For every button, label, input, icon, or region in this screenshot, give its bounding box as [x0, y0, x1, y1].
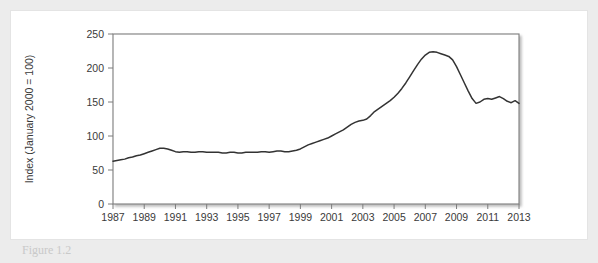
x-axis-tick-label: 1993	[195, 211, 219, 223]
y-axis-tick-label: 200	[86, 62, 104, 74]
x-axis-tick-label: 2009	[445, 211, 469, 223]
y-axis-tick-label: 50	[92, 164, 104, 176]
x-axis-tick-label: 1989	[133, 211, 157, 223]
y-axis-tick-label: 150	[86, 96, 104, 108]
y-axis: 050100150200250	[86, 28, 113, 210]
caption-strip: Figure 1.2	[0, 240, 598, 263]
chart-plot-area: 050100150200250 198719891991199319951997…	[11, 11, 589, 241]
x-axis-tick-label: 1997	[257, 211, 281, 223]
x-axis-tick-label: 1991	[164, 211, 188, 223]
x-axis-tick-label: 2005	[382, 211, 406, 223]
x-axis-tick-label: 1995	[226, 211, 250, 223]
x-axis-tick-label: 2001	[320, 211, 344, 223]
x-axis-tick-label: 1987	[101, 211, 125, 223]
x-axis-tick-label: 2007	[414, 211, 438, 223]
y-axis-title: Index (January 2000 = 100)	[23, 55, 35, 184]
x-axis-tick-label: 2003	[351, 211, 375, 223]
figure-card: 050100150200250 198719891991199319951997…	[10, 10, 588, 240]
y-axis-tick-label: 0	[98, 198, 104, 210]
y-axis-tick-label: 100	[86, 130, 104, 142]
figure-caption: Figure 1.2	[22, 243, 71, 258]
x-axis: 1987198919911993199519971999200120032005…	[101, 204, 531, 223]
x-axis-tick-label: 2011	[476, 211, 499, 223]
house-price-index-line-chart: 050100150200250 198719891991199319951997…	[11, 11, 589, 241]
x-axis-tick-label: 2013	[507, 211, 531, 223]
plot-frame	[113, 34, 519, 204]
y-axis-tick-label: 250	[86, 28, 104, 40]
x-axis-tick-label: 1999	[289, 211, 313, 223]
